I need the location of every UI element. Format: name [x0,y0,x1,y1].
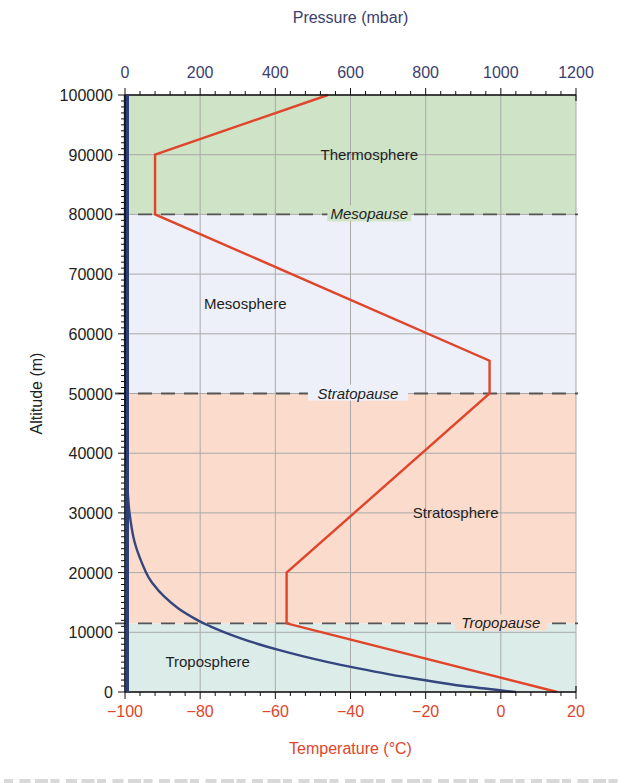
region-label-mesosphere: Mesosphere [204,295,287,312]
y-tick-label: 100000 [60,87,113,104]
bottom-x-tick-label: −80 [187,703,214,720]
y-tick-label: 30000 [69,505,114,522]
atmosphere-profile-chart: 0100002000030000400005000060000700008000… [0,0,624,783]
y-tick-label: 60000 [69,326,114,343]
boundary-label-mesopause: Mesopause [331,205,409,222]
bottom-axis-title: Temperature (°C) [289,740,412,757]
cut-off-caption-fragment [578,779,589,783]
region-label-stratosphere: Stratosphere [413,504,499,521]
cut-off-caption-fragment [299,779,310,783]
cut-off-caption-fragment [144,779,153,783]
cut-off-caption-fragment [314,779,327,783]
cut-off-caption-fragment [237,779,246,783]
cut-off-caption-fragment [469,779,478,783]
cut-off-caption-fragment [35,779,48,783]
cut-off-caption-fragment [593,779,606,783]
cut-off-caption-fragment [361,779,374,783]
bottom-x-tick-label: −20 [412,703,439,720]
top-x-tick-label: 200 [187,64,214,81]
cut-off-caption-fragment [516,779,525,783]
y-tick-label: 50000 [69,386,114,403]
cut-off-caption-fragment [547,779,560,783]
cut-off-caption-fragment [113,779,124,783]
cut-off-caption-fragment [609,779,618,783]
top-x-tick-label: 1200 [558,64,594,81]
y-tick-label: 90000 [69,147,114,164]
top-x-tick-label: 800 [412,64,439,81]
y-tick-label: 70000 [69,266,114,283]
cut-off-caption-fragment [20,779,31,783]
cut-off-caption-fragment [531,779,542,783]
cut-off-caption-fragment [252,779,263,783]
cut-off-caption-fragment [175,779,188,783]
y-tick-label: 20000 [69,565,114,582]
cut-off-caption-fragment [159,779,170,783]
y-tick-label: 0 [104,684,113,701]
cut-off-caption-fragment [97,779,106,783]
cut-off-caption-fragment [51,779,60,783]
bottom-x-tick-label: −40 [337,703,364,720]
bottom-x-tick-label: 20 [567,703,585,720]
cut-off-caption-fragment [454,779,467,783]
cut-off-caption-fragment [82,779,95,783]
cut-off-caption-fragment [128,779,141,783]
top-x-tick-label: 600 [337,64,364,81]
cut-off-caption-fragment [485,779,496,783]
cut-off-caption-fragment [206,779,217,783]
top-x-tick-label: 400 [262,64,289,81]
y-axis-title: Altitude (m) [28,353,45,435]
left-axis-blue-band [126,95,129,692]
cut-off-caption-fragment [283,779,292,783]
y-tick-label: 40000 [69,445,114,462]
region-label-troposphere: Troposphere [165,653,250,670]
cut-off-caption-fragment [268,779,281,783]
y-tick-label: 10000 [69,624,114,641]
y-tick-label: 80000 [69,206,114,223]
cut-off-caption-fragment [376,779,385,783]
cut-off-caption-fragment [500,779,513,783]
cut-off-caption-fragment [330,779,339,783]
cut-off-caption-fragment [4,779,13,783]
top-axis-title: Pressure (mbar) [293,9,409,26]
bottom-x-tick-label: −100 [107,703,143,720]
boundary-label-tropopause: Tropopause [461,614,540,631]
cut-off-caption-fragment [221,779,234,783]
bottom-x-tick-label: 0 [496,703,505,720]
cut-off-caption-fragment [345,779,356,783]
top-x-tick-label: 1000 [483,64,519,81]
cut-off-caption-fragment [392,779,403,783]
cut-off-caption-fragment [407,779,420,783]
cut-off-caption-fragment [66,779,77,783]
cut-off-caption-fragment [562,779,571,783]
cut-off-caption-fragment [190,779,199,783]
cut-off-caption-fragment [438,779,449,783]
boundary-label-stratopause: Stratopause [318,385,399,402]
top-x-tick-label: 0 [121,64,130,81]
cut-off-caption-fragment [423,779,432,783]
bottom-x-tick-label: −60 [262,703,289,720]
region-label-thermosphere: Thermosphere [321,146,419,163]
